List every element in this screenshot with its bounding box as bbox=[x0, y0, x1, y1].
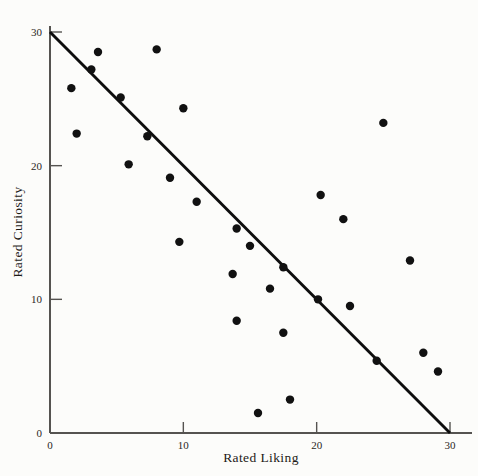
data-point bbox=[316, 191, 324, 199]
data-point bbox=[166, 173, 174, 181]
x-tick-label-20: 20 bbox=[311, 439, 323, 451]
y-tick-label-30: 30 bbox=[31, 26, 43, 38]
data-point bbox=[406, 256, 414, 264]
data-point bbox=[175, 238, 183, 246]
data-point bbox=[254, 409, 262, 417]
data-point bbox=[116, 93, 124, 101]
data-point bbox=[279, 329, 287, 337]
regression-line-group bbox=[50, 32, 450, 433]
data-point bbox=[232, 224, 240, 232]
data-point bbox=[372, 357, 380, 365]
y-tick-label-10: 10 bbox=[31, 293, 43, 305]
data-point bbox=[228, 270, 236, 278]
data-point bbox=[87, 65, 95, 73]
data-point bbox=[286, 395, 294, 403]
data-point bbox=[346, 302, 354, 310]
data-point bbox=[266, 284, 274, 292]
x-tick-label-10: 10 bbox=[178, 439, 190, 451]
data-point bbox=[246, 242, 254, 250]
scatter-plot-figure: 0102030 0102030 Rated Liking Rated Curio… bbox=[0, 0, 478, 476]
x-tick-label-30: 30 bbox=[445, 439, 457, 451]
data-point bbox=[314, 295, 322, 303]
y-tick-label-0: 0 bbox=[37, 427, 43, 439]
data-point bbox=[434, 367, 442, 375]
data-point bbox=[152, 45, 160, 53]
regression-line bbox=[50, 32, 450, 433]
x-axis-title: Rated Liking bbox=[223, 450, 299, 465]
x-tick-label-0: 0 bbox=[47, 439, 53, 451]
data-point bbox=[339, 215, 347, 223]
data-point bbox=[192, 198, 200, 206]
data-point bbox=[67, 84, 75, 92]
y-axis-ticks: 0102030 bbox=[31, 26, 62, 439]
data-point bbox=[72, 129, 80, 137]
data-point bbox=[379, 119, 387, 127]
data-point bbox=[232, 317, 240, 325]
y-tick-label-20: 20 bbox=[31, 160, 43, 172]
data-point bbox=[143, 132, 151, 140]
data-point bbox=[419, 349, 427, 357]
data-point bbox=[124, 160, 132, 168]
y-axis-title: Rated Curiosity bbox=[10, 186, 25, 277]
data-point bbox=[94, 48, 102, 56]
data-points-group bbox=[67, 45, 442, 417]
data-point bbox=[279, 263, 287, 271]
axes-group bbox=[50, 26, 472, 433]
chart-canvas: 0102030 0102030 Rated Liking Rated Curio… bbox=[0, 0, 478, 476]
data-point bbox=[179, 104, 187, 112]
x-axis-ticks: 0102030 bbox=[47, 422, 456, 451]
